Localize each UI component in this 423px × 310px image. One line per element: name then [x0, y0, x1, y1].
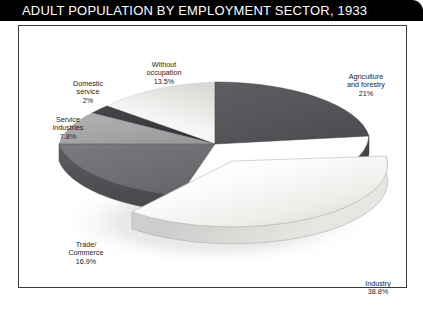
slice-label-trade-commerce-pct: 16.9%	[45, 258, 127, 267]
slice-label-without-occupation-name: Without occupation	[147, 60, 182, 78]
slice-label-trade-commerce: Trade/ Commerce 16.9%	[45, 232, 127, 275]
slice-label-service-industries-name: Service industries	[53, 115, 84, 133]
slice-label-agriculture: Agriculture and forestry 21%	[319, 64, 413, 107]
slice-label-industry-pct: 38.8%	[335, 288, 421, 297]
chart-panel: Agriculture and forestry 21% Industry 38…	[18, 25, 407, 288]
title-bar: ADULT POPULATION BY EMPLOYMENT SECTOR, 1…	[0, 0, 423, 21]
slice-label-agriculture-pct: 21%	[319, 90, 413, 99]
slice-label-trade-commerce-name: Trade/ Commerce	[68, 240, 103, 258]
slice-label-agriculture-name: Agriculture and forestry	[347, 72, 385, 90]
slice-label-domestic-service-pct: 2%	[45, 97, 131, 106]
slice-label-without-occupation-pct: 13.5%	[116, 78, 212, 87]
page-title: ADULT POPULATION BY EMPLOYMENT SECTOR, 1…	[22, 3, 367, 18]
slice-label-industry: Industry 38.8%	[335, 271, 421, 305]
slice-label-domestic-service-name: Domestic service	[73, 79, 103, 97]
slice-label-without-occupation: Without occupation 13.5%	[116, 52, 212, 95]
chart-figure: ADULT POPULATION BY EMPLOYMENT SECTOR, 1…	[0, 0, 423, 310]
slice-label-service-industries-pct: 7.8%	[25, 133, 111, 142]
